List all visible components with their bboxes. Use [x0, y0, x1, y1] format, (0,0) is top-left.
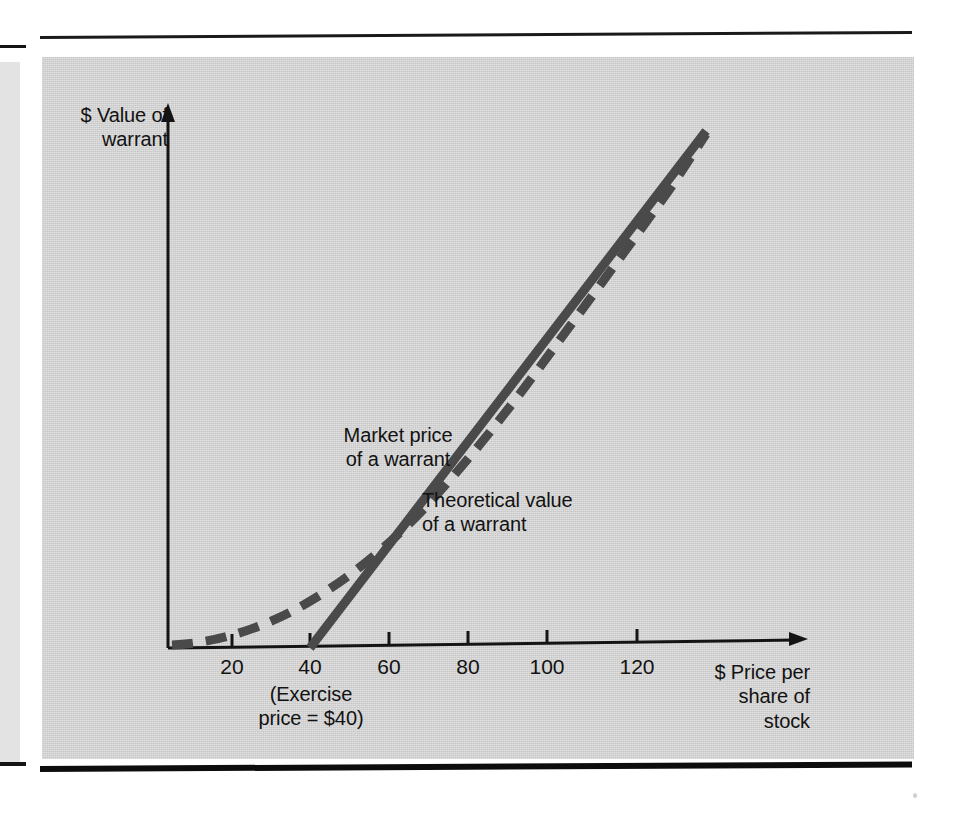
x-tick-label-40: 40	[280, 655, 340, 679]
x-tick-label-60: 60	[359, 655, 419, 679]
y-axis-label-line2: warrant	[58, 127, 168, 151]
y-axis-label: $ Value ofwarrant	[58, 103, 168, 152]
exercise-price-note-line1: (Exercise	[218, 682, 404, 706]
x-tick-label-80: 80	[438, 655, 498, 679]
figure-page: $ Value ofwarrant $ Price pershare ofsto…	[0, 0, 959, 824]
market-price-annotation-line2: of a warrant	[318, 447, 478, 471]
exercise-price-note: (Exerciseprice = $40)	[218, 682, 404, 731]
exercise-price-note-line2: price = $40)	[218, 706, 404, 730]
x-tick-label-120: 120	[607, 655, 667, 679]
x-tick-label-100: 100	[517, 655, 577, 679]
scan-speck	[913, 793, 917, 798]
figure-rule-bottom	[40, 761, 912, 772]
adjacent-figure-strip	[0, 62, 20, 762]
theoretical-value-annotation-line2: of a warrant	[422, 512, 652, 536]
theoretical-value-annotation-line1: Theoretical value	[422, 488, 652, 512]
figure-panel	[42, 57, 914, 759]
market-price-annotation-line1: Market price	[318, 423, 478, 447]
figure-rule-top	[40, 31, 912, 39]
adjacent-figure-rule-top	[0, 45, 26, 48]
x-axis-label-line2: share of	[640, 684, 810, 708]
x-axis-label-line3: stock	[640, 709, 810, 733]
y-axis-label-line1: $ Value of	[80, 104, 168, 126]
market-price-annotation: Market priceof a warrant	[318, 423, 478, 472]
adjacent-figure-rule-bottom	[0, 762, 26, 766]
theoretical-value-annotation: Theoretical valueof a warrant	[422, 488, 652, 537]
x-tick-label-20: 20	[202, 655, 262, 679]
